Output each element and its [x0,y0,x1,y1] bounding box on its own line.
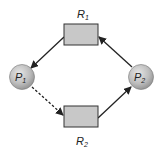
resource-allocation-graph: R1 R2 P1 P2 [0,0,157,156]
process-p2: P2 [129,65,154,90]
process-p1: P1 [10,65,35,90]
edge-r1-to-p1 [31,37,64,68]
edge-p2-to-r1 [99,37,132,67]
svg-text:R1: R1 [77,8,89,21]
resource-r2: R2 [64,106,98,148]
svg-text:R2: R2 [76,135,88,148]
resource-r1: R1 [64,8,98,45]
resource-r2-label: R [76,135,84,147]
edge-p1-to-r2-claim [32,87,63,115]
edge-r2-to-p2 [98,87,131,118]
resource-r1-label: R [77,8,85,20]
